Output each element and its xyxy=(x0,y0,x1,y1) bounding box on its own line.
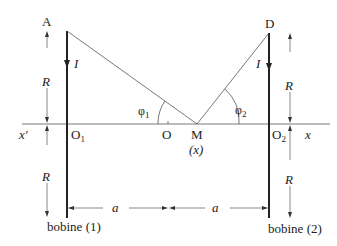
arrow-icon xyxy=(68,206,74,210)
radius-right-bottom-label: R xyxy=(284,172,293,187)
current-arrow-right-icon xyxy=(266,63,272,71)
angle-phi2-label: φ2 xyxy=(235,103,246,119)
two-coils-diagram: A D I I R R R R φ1 φ2 x′ x O1 O M (x) O2… xyxy=(0,0,337,246)
axis-x-label: x xyxy=(304,127,311,142)
radius-left-top-label: R xyxy=(41,74,50,89)
point-O-label: O xyxy=(162,127,171,142)
current-right-label: I xyxy=(255,56,261,71)
radius-right-top-label: R xyxy=(284,78,293,93)
line-D-M xyxy=(197,33,269,124)
current-arrow-left-icon xyxy=(64,60,70,68)
distance-a-right-label: a xyxy=(212,200,219,215)
coil-1-label: bobine (1) xyxy=(47,219,101,234)
point-A-label: A xyxy=(42,14,52,29)
arrow-icon xyxy=(169,206,175,210)
axis-x-prime-label: x′ xyxy=(18,127,28,142)
point-M-coord: (x) xyxy=(189,142,203,157)
line-A-M xyxy=(67,31,197,124)
current-left-label: I xyxy=(73,56,79,71)
arrow-icon xyxy=(288,125,292,131)
coil-2-label: bobine (2) xyxy=(268,221,322,236)
arrow-icon xyxy=(288,117,292,123)
distance-a-left-label: a xyxy=(112,200,119,215)
arrow-icon xyxy=(288,212,292,218)
radius-left-bottom-label: R xyxy=(41,169,50,184)
arrow-icon xyxy=(288,33,292,39)
arrow-icon xyxy=(45,125,49,131)
angle-phi1-arc xyxy=(158,101,165,124)
point-O2-label: O2 xyxy=(272,127,286,144)
arrow-icon xyxy=(262,206,268,210)
arrow-icon xyxy=(162,206,168,210)
point-O1-label: O1 xyxy=(71,127,85,144)
arrow-icon xyxy=(45,31,49,37)
point-D-label: D xyxy=(265,16,274,31)
point-M-label: M xyxy=(191,127,203,142)
angle-phi1-label: φ1 xyxy=(138,104,149,120)
arrow-icon xyxy=(45,211,49,217)
arrow-icon xyxy=(45,117,49,123)
